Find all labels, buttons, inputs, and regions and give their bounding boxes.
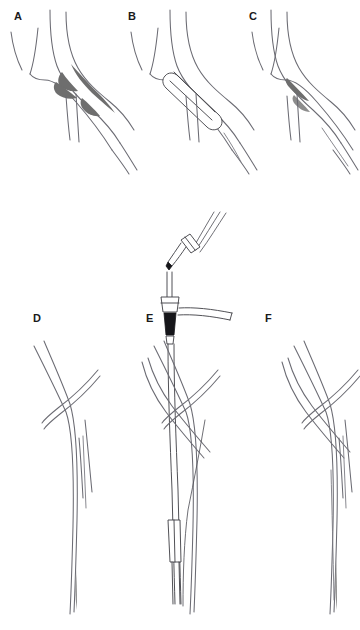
- figure-root: A B: [0, 0, 360, 630]
- panel-label-a: A: [14, 10, 22, 22]
- panel-e-sheath-hub: [161, 297, 179, 312]
- panel-label-e: E: [146, 312, 153, 324]
- panel-e-valve-collar: [166, 336, 174, 344]
- panel-label-f: F: [265, 312, 272, 324]
- panel-label-d: D: [33, 312, 41, 324]
- panel-label-c: C: [249, 10, 257, 22]
- panel-e-valve-lever: [164, 313, 176, 335]
- panel-label-b: B: [128, 10, 136, 22]
- endovascular-procedure-figure: A B: [0, 0, 360, 630]
